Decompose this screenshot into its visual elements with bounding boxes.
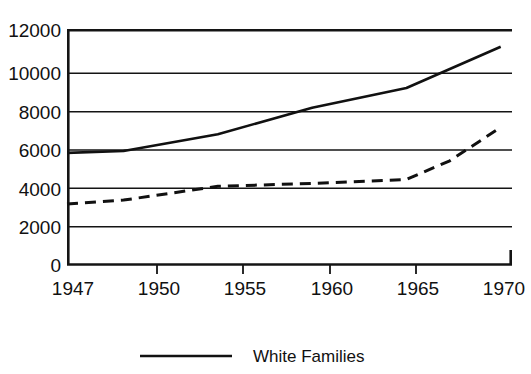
line-chart-canvas: 12000 10000 8000 6000 4000 2000 0 1947 1… bbox=[0, 0, 531, 374]
y-tick-label-8000: 8000 bbox=[19, 102, 61, 123]
y-tick-label-4000: 4000 bbox=[19, 179, 61, 200]
y-tick-label-12000: 12000 bbox=[8, 20, 61, 41]
y-tick-label-10000: 10000 bbox=[8, 63, 61, 84]
y-axis-tick-labels: 12000 10000 8000 6000 4000 2000 0 bbox=[8, 20, 61, 276]
x-tick-label-1955: 1955 bbox=[224, 278, 266, 299]
series-line-white-families bbox=[67, 47, 501, 153]
x-tick-label-1947: 1947 bbox=[52, 278, 94, 299]
plot-frame bbox=[67, 29, 512, 265]
x-tick-label-1960: 1960 bbox=[311, 278, 353, 299]
x-tick-label-1970: 1970 bbox=[483, 278, 525, 299]
data-series-group bbox=[67, 47, 501, 204]
series-line-dashed bbox=[67, 127, 501, 204]
y-tick-label-2000: 2000 bbox=[19, 217, 61, 238]
legend-label-white-families: White Families bbox=[253, 347, 364, 366]
x-axis-tick-labels: 1947 1950 1955 1960 1965 1970 bbox=[52, 278, 525, 299]
y-tick-label-6000: 6000 bbox=[19, 140, 61, 161]
x-tick-label-1965: 1965 bbox=[397, 278, 439, 299]
x-axis-ticks bbox=[157, 265, 416, 274]
chart-figure: 12000 10000 8000 6000 4000 2000 0 1947 1… bbox=[0, 0, 531, 374]
chart-legend: White Families bbox=[140, 347, 364, 366]
x-tick-label-1950: 1950 bbox=[138, 278, 180, 299]
y-tick-label-0: 0 bbox=[50, 255, 61, 276]
